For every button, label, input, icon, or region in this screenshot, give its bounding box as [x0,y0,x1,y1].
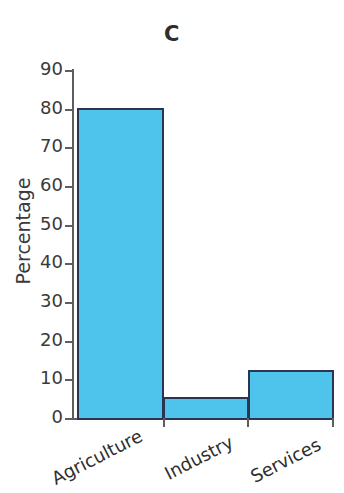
y-tick-label-50: 50 [3,215,63,233]
x-tick-separator-1 [163,418,165,427]
y-tick-0 [65,418,73,420]
y-tick-label-70: 70 [3,137,63,155]
y-tick-40 [65,263,73,265]
y-tick-10 [65,379,73,381]
y-tick-60 [65,186,73,188]
chart-title: C [0,22,344,46]
y-tick-20 [65,341,73,343]
y-tick-30 [65,302,73,304]
y-tick-90 [65,70,73,72]
x-tick-separator-3 [332,418,334,427]
y-tick-50 [65,225,73,227]
y-tick-label-20: 20 [3,331,63,349]
bar-industry[interactable] [163,397,249,420]
bar-services[interactable] [248,370,334,420]
y-tick-label-10: 10 [3,369,63,387]
y-tick-70 [65,147,73,149]
x-axis-label-industry: Industry [161,431,237,483]
x-axis-label-services: Services [247,434,324,487]
y-axis-line [72,69,74,420]
y-tick-label-90: 90 [3,60,63,78]
y-tick-80 [65,109,73,111]
x-axis-label-agriculture: Agriculture [48,425,146,489]
y-tick-label-30: 30 [3,292,63,310]
bar-chart-figure: C Percentage 90 80 70 60 50 40 30 20 10 … [0,0,344,493]
y-tick-label-60: 60 [3,176,63,194]
y-tick-label-0: 0 [3,408,63,426]
x-tick-separator-2 [247,418,249,427]
y-tick-label-80: 80 [3,99,63,117]
y-tick-label-40: 40 [3,253,63,271]
bar-agriculture[interactable] [77,108,164,420]
